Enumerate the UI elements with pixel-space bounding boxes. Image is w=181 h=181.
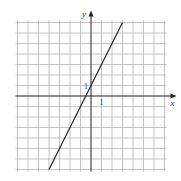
coordinate-plane: yx11 (0, 0, 181, 181)
y-tick-label-1: 1 (84, 82, 88, 91)
x-axis-label: x (170, 98, 175, 108)
y-axis-label: y (81, 9, 86, 19)
y-axis-arrow-icon (89, 11, 94, 17)
x-tick-label-1: 1 (100, 98, 104, 107)
